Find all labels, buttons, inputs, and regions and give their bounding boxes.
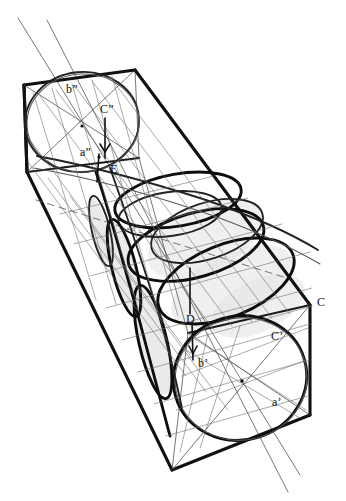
ruling-c-1 [33,92,96,300]
far-face-diagonal-1 [188,333,310,415]
dot-a-double-prime [97,155,100,158]
geometry-drawing [0,0,346,501]
label-a-double-prime: a” [80,146,91,158]
tick-b-prime-arrow-right [193,346,197,354]
label-b-prime: b’ [198,357,208,369]
label-c-double-prime: C” [100,103,114,115]
label-d: D [186,313,195,325]
label-a-prime: a’ [272,396,282,408]
label-c-prime: C’ [271,330,283,342]
label-e: E [110,163,118,175]
label-b-double-prime: b” [66,83,78,95]
label-c: C [317,296,325,308]
figure-canvas: b” C” a” E D b’ C’ C a’ [0,0,346,501]
dot-on-ray-near [80,124,83,127]
ruling-d-5 [176,360,306,410]
dot-on-ray-far [240,379,244,383]
